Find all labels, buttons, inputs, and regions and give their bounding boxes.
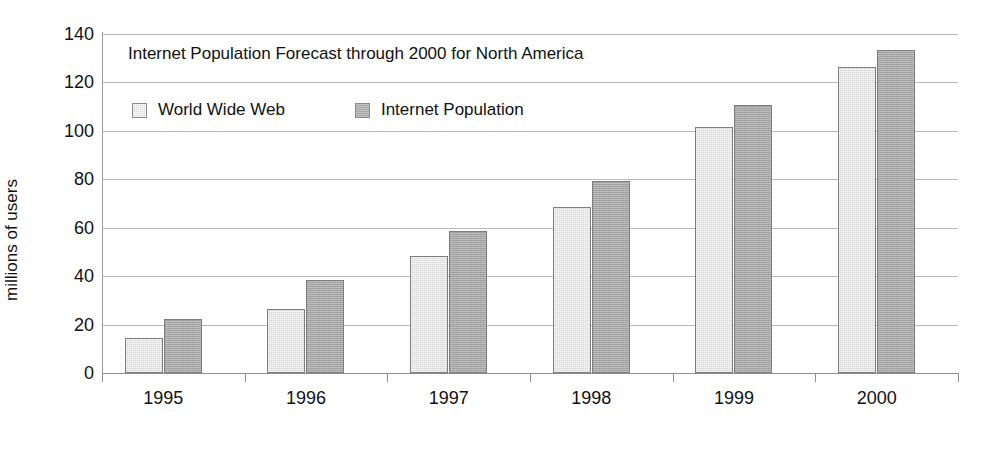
legend-item[interactable]: World Wide Web: [132, 100, 285, 120]
bar-group: [530, 34, 673, 373]
bar-group: [245, 34, 388, 373]
x-tick-mark: [815, 373, 816, 382]
y-tick-label: 40: [50, 266, 94, 287]
x-tick-mark: [958, 373, 959, 382]
x-tick-mark: [673, 373, 674, 382]
x-tick-mark: [387, 373, 388, 382]
bar: [734, 105, 772, 373]
y-tick-label: 0: [50, 363, 94, 384]
legend-swatch-icon: [132, 103, 147, 118]
x-tick-label: 1995: [143, 388, 183, 409]
y-axis-title: millions of users: [2, 130, 22, 350]
x-tick-label: 1998: [571, 388, 611, 409]
legend-label: Internet Population: [381, 100, 524, 120]
y-tick-label: 20: [50, 314, 94, 335]
y-tick-label: 120: [50, 72, 94, 93]
bars-layer: [102, 34, 958, 373]
bar: [695, 127, 733, 373]
legend-swatch-icon: [355, 103, 370, 118]
bar: [877, 50, 915, 373]
bar: [838, 67, 876, 373]
bar: [592, 181, 630, 374]
x-tick-label: 1996: [286, 388, 326, 409]
bar-group: [673, 34, 816, 373]
x-tick-mark: [245, 373, 246, 382]
bar: [306, 280, 344, 373]
chart-title: Internet Population Forecast through 200…: [128, 44, 583, 64]
bar: [267, 309, 305, 373]
y-axis-ticks: 020406080100120140: [38, 34, 94, 373]
x-tick-label: 1997: [429, 388, 469, 409]
x-tick-mark: [530, 373, 531, 382]
bar: [164, 319, 202, 373]
bar: [553, 207, 591, 373]
bar: [449, 231, 487, 373]
bar: [410, 256, 448, 373]
bar-group: [102, 34, 245, 373]
legend-item[interactable]: Internet Population: [355, 100, 524, 120]
x-axis-labels: 199519961997199819992000: [102, 388, 958, 418]
chart-legend: World Wide WebInternet Population: [132, 100, 594, 120]
bar-group: [815, 34, 958, 373]
legend-label: World Wide Web: [158, 100, 285, 120]
x-tick-label: 2000: [857, 388, 897, 409]
y-tick-label: 60: [50, 217, 94, 238]
x-tick-label: 1999: [714, 388, 754, 409]
bar-group: [387, 34, 530, 373]
bar: [125, 338, 163, 373]
y-tick-label: 140: [50, 24, 94, 45]
x-axis-ticks: [102, 373, 958, 383]
y-tick-label: 80: [50, 169, 94, 190]
bar-chart: millions of users 020406080100120140 199…: [0, 0, 995, 452]
y-tick-label: 100: [50, 120, 94, 141]
x-tick-mark: [102, 373, 103, 382]
